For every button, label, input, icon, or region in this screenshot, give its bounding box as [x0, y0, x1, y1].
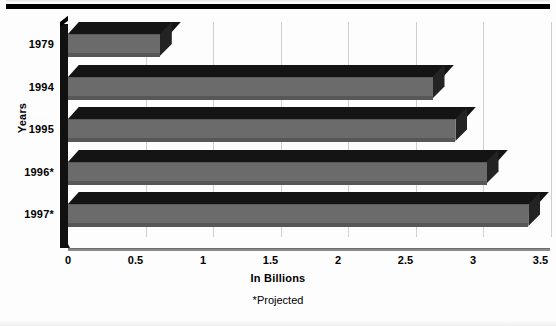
- bar-face-shading: [68, 53, 160, 57]
- page-edge-shadow: [0, 320, 556, 326]
- chart-canvas: 1979199419951996*1997* 00.511.522.533.5 …: [0, 0, 556, 326]
- bar-item: [68, 107, 469, 141]
- bar-item: [68, 65, 447, 99]
- y-tick-label: 1997*: [2, 208, 54, 220]
- x-tick-label: 1.5: [251, 254, 291, 266]
- x-axis-line: [68, 249, 550, 251]
- x-tick-label: 0.5: [116, 254, 156, 266]
- bar-item: [68, 192, 542, 226]
- x-tick-label: 0: [48, 254, 88, 266]
- bar-face-shading: [68, 96, 433, 100]
- y-tick-label: 1995: [2, 123, 54, 135]
- bar-top-face: [68, 150, 507, 162]
- top-rule-shadow: [6, 0, 550, 3]
- bar-face-shading: [68, 181, 487, 185]
- bar-front-face: [68, 34, 160, 57]
- x-axis-title: In Billions: [0, 272, 556, 284]
- y-axis-title: Years: [16, 98, 28, 138]
- top-horizontal-rule: [6, 4, 550, 9]
- bar-face-shading: [68, 138, 455, 142]
- bar-front-face: [68, 204, 528, 227]
- x-tick-label: 3: [453, 254, 493, 266]
- x-tick-label: 3.5: [521, 254, 556, 266]
- chart-footnote: *Projected: [0, 294, 556, 306]
- bar-front-face: [68, 77, 433, 100]
- y-tick-label: 1994: [2, 81, 54, 93]
- bar-top-face: [68, 107, 476, 119]
- x-tick-label: 2.5: [386, 254, 426, 266]
- bar-top-face: [68, 65, 453, 77]
- x-tick-label: 2: [318, 254, 358, 266]
- y-tick-label: 1979: [2, 38, 54, 50]
- bar-front-face: [68, 162, 487, 185]
- gridline: [551, 22, 552, 237]
- bar-top-face: [68, 192, 549, 204]
- y-axis-wall: [60, 24, 68, 248]
- bar-item: [68, 150, 501, 184]
- bar-front-face: [68, 119, 455, 142]
- x-tick-label: 1: [183, 254, 223, 266]
- y-tick-label: 1996*: [2, 166, 54, 178]
- bar-item: [68, 22, 174, 56]
- bar-face-shading: [68, 223, 528, 227]
